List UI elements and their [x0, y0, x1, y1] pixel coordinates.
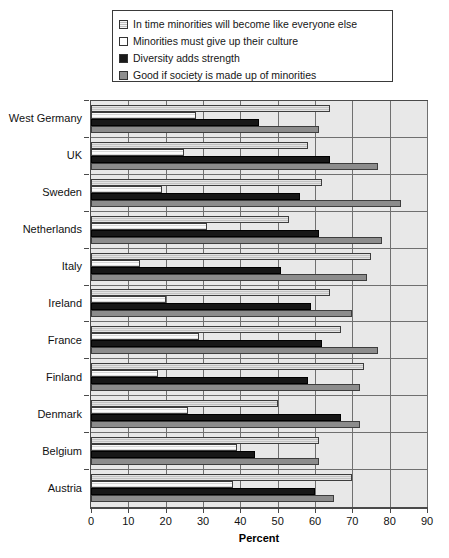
bar-group [91, 396, 427, 433]
bar [91, 163, 378, 170]
category-label: Belgium [42, 445, 82, 457]
bar [91, 186, 162, 193]
x-axis-tick-80 [390, 508, 391, 513]
legend-item: Minorities must give up their culture [119, 33, 392, 49]
bar-group [91, 433, 427, 470]
bar-group [91, 101, 427, 138]
bar [91, 370, 158, 377]
bar [91, 377, 308, 384]
x-axis-tick-label-80: 80 [375, 515, 405, 528]
bar [91, 347, 378, 354]
bar [91, 193, 300, 200]
y-axis-tick [84, 137, 89, 138]
x-axis-tick-label-10: 10 [113, 515, 143, 528]
x-axis-tick-50 [278, 508, 279, 513]
bar [91, 142, 308, 149]
bar-group [91, 322, 427, 359]
bar [91, 112, 196, 119]
x-axis-tick-label-20: 20 [151, 515, 181, 528]
y-axis-tick [84, 285, 89, 286]
bar [91, 400, 278, 407]
category-label: Finland [46, 371, 82, 383]
category-axis-labels: West GermanyUKSwedenNetherlandsItalyIrel… [0, 100, 86, 508]
bar [91, 421, 360, 428]
y-axis-tick [84, 469, 89, 470]
bar [91, 149, 184, 156]
x-axis-tick-label-90: 90 [412, 515, 442, 528]
x-axis-tick-label-0: 0 [76, 515, 106, 528]
category-label: Italy [62, 260, 82, 272]
legend-swatch-series-3 [119, 54, 128, 63]
bar [91, 340, 322, 347]
bar [91, 119, 259, 126]
legend-label-series-2: Minorities must give up their culture [133, 35, 298, 47]
bar [91, 384, 360, 391]
x-axis-tick-40 [240, 508, 241, 513]
bar [91, 260, 140, 267]
bar-group [91, 249, 427, 286]
category-label: West Germany [9, 112, 82, 124]
bar-group [91, 175, 427, 212]
bar [91, 179, 322, 186]
legend-swatch-series-4 [119, 71, 128, 80]
legend-swatch-series-1 [119, 20, 128, 29]
x-axis-tick-label-70: 70 [337, 515, 367, 528]
category-label: Denmark [37, 408, 82, 420]
bar [91, 326, 341, 333]
x-axis-tick-10 [128, 508, 129, 513]
legend-label-series-1: In time minorities will become like ever… [133, 18, 357, 30]
bar [91, 296, 166, 303]
bar-group [91, 359, 427, 396]
y-axis-tick [84, 395, 89, 396]
bar-group [91, 138, 427, 175]
bar [91, 237, 382, 244]
bar [91, 126, 319, 133]
bar-group [91, 212, 427, 249]
chart-plot-area [90, 100, 428, 508]
bar [91, 481, 233, 488]
bar [91, 216, 289, 223]
bar [91, 267, 281, 274]
bar [91, 488, 315, 495]
legend-label-series-3: Diversity adds strength [133, 52, 240, 64]
x-axis-title: Percent [90, 532, 428, 544]
bar [91, 274, 367, 281]
bar [91, 495, 334, 502]
x-axis-tick-label-30: 30 [188, 515, 218, 528]
y-axis-tick [84, 174, 89, 175]
bar [91, 253, 371, 260]
bar [91, 289, 330, 296]
category-label: UK [67, 149, 82, 161]
x-axis-tick-label-60: 60 [300, 515, 330, 528]
bar [91, 451, 255, 458]
y-axis-tick [84, 321, 89, 322]
category-label: France [48, 334, 82, 346]
x-axis-tick-30 [203, 508, 204, 513]
x-axis-line [90, 508, 428, 509]
category-label: Austria [48, 482, 82, 494]
bar [91, 474, 352, 481]
x-axis-tick-60 [315, 508, 316, 513]
x-axis-tick-0 [91, 508, 92, 513]
bar [91, 156, 330, 163]
x-axis-tick-label-40: 40 [225, 515, 255, 528]
category-label: Sweden [42, 186, 82, 198]
bar-groups [91, 101, 427, 507]
y-axis-tick [84, 211, 89, 212]
bar [91, 223, 207, 230]
bar-group [91, 286, 427, 323]
legend-item: In time minorities will become like ever… [119, 16, 392, 32]
bar [91, 363, 364, 370]
gridline-90 [427, 101, 428, 507]
legend-swatch-series-2 [119, 37, 128, 46]
category-label: Netherlands [23, 223, 82, 235]
bar [91, 444, 237, 451]
bar [91, 458, 319, 465]
bar [91, 310, 352, 317]
bar [91, 407, 188, 414]
bar [91, 200, 401, 207]
bar [91, 437, 319, 444]
y-axis-tick [84, 432, 89, 433]
y-axis-tick [84, 248, 89, 249]
bar [91, 333, 199, 340]
